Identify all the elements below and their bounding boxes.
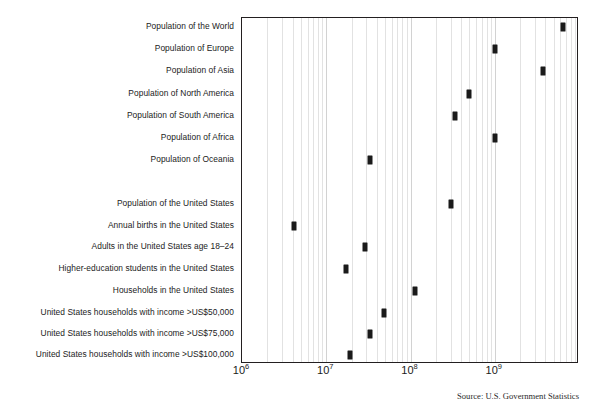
x-tick-label: 109 [486,364,502,376]
category-label: Annual births in the United States [0,220,234,230]
gridline [313,18,314,362]
gridline [520,18,521,362]
data-point-marker [291,222,296,231]
x-tick-base: 10 [401,364,413,376]
gridline [491,18,492,362]
gridline [436,18,437,362]
x-tick-base: 10 [317,364,329,376]
category-label: Population of Europe [0,43,234,53]
x-tick-exponent: 8 [414,362,418,371]
gridline [352,18,353,362]
category-label: Adults in the United States age 18–24 [0,241,234,251]
chart-page: Population of the WorldPopulation of Eur… [0,0,589,414]
gridline [575,18,576,362]
gridline [282,18,283,362]
gridline [402,18,403,362]
category-label: Population of Asia [0,65,234,75]
gridline [469,18,470,362]
data-point-marker [367,330,372,339]
gridline [476,18,477,362]
x-tick-base: 10 [486,364,498,376]
data-point-marker [347,351,352,360]
data-point-marker [492,134,497,143]
data-point-marker [448,200,453,209]
x-tick-label: 108 [401,364,417,376]
gridline [392,18,393,362]
category-label: United States households with income >US… [0,328,234,338]
data-point-marker [343,265,348,274]
source-caption: Source: U.S. Government Statistics [457,391,579,401]
category-label-column: Population of the WorldPopulation of Eur… [0,0,234,414]
data-point-marker [492,45,497,54]
data-point-marker [367,156,372,165]
category-label: Households in the United States [0,285,234,295]
gridline [322,18,323,362]
gridline [554,18,555,362]
gridline [301,18,302,362]
category-label: Population of North America [0,88,234,98]
gridline [318,18,319,362]
gridline [411,18,412,362]
data-point-marker [467,90,472,99]
x-tick-label: 106 [233,364,249,376]
x-tick-label: 107 [317,364,333,376]
x-tick-exponent: 7 [329,362,333,371]
category-label: Population of Africa [0,132,234,142]
data-point-marker [540,67,545,76]
gridline [407,18,408,362]
gridline [487,18,488,362]
gridline [451,18,452,362]
gridline [560,18,561,362]
data-point-marker [412,287,417,296]
gridline [326,18,327,362]
category-label: Population of the World [0,21,234,31]
gridline [397,18,398,362]
gridline [366,18,367,362]
gridline [377,18,378,362]
gridline [308,18,309,362]
gridline [571,18,572,362]
category-label: United States households with income >US… [0,349,234,359]
x-tick-base: 10 [233,364,245,376]
x-tick-exponent: 6 [245,362,249,371]
data-point-marker [453,112,458,121]
x-axis: 106107108109 [241,364,578,386]
data-point-marker [381,309,386,318]
category-label: Population of South America [0,110,234,120]
gridline [482,18,483,362]
category-label: United States households with income >US… [0,307,234,317]
gridline [293,18,294,362]
category-label: Population of the United States [0,198,234,208]
gridline [461,18,462,362]
gridline [566,18,567,362]
data-point-marker [363,243,368,252]
gridline [535,18,536,362]
data-point-marker [561,23,566,32]
x-tick-exponent: 9 [498,362,502,371]
category-label: Higher-education students in the United … [0,263,234,273]
gridline [495,18,496,362]
gridline [545,18,546,362]
plot-area [241,17,578,363]
gridline [267,18,268,362]
category-label: Population of Oceania [0,154,234,164]
